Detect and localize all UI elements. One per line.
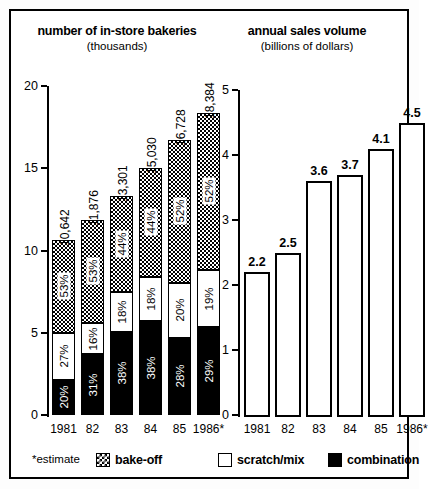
bar-segment-bake-off: 53% (52, 240, 75, 333)
bar-value-label: 3.7 (331, 159, 369, 172)
bar-segment-percent-label: 44% (115, 231, 128, 258)
bar-value-label: 4.5 (393, 107, 431, 120)
bar-segment-combination: 38% (139, 321, 162, 415)
bar-segment-bake-off: 53% (81, 220, 104, 324)
left-chart-title-block: number of in-store bakeries (thousands) (22, 24, 212, 54)
bar-total-label: 11,876 (88, 190, 100, 226)
left-chart-subtitle: (thousands) (22, 39, 212, 54)
legend-label-combination: combination (347, 453, 419, 467)
left-chart-y-tick (41, 414, 47, 416)
right-chart-y-tick (232, 219, 238, 221)
left-chart-y-tick (41, 250, 47, 252)
legend-estimate-note: *estimate (32, 453, 80, 465)
left-chart-y-tick (41, 167, 47, 169)
bar-segment-label-wrap: 16% (82, 324, 103, 353)
stacked-bar: 38%18%44% (139, 168, 162, 415)
bar-segment-percent-label: 52% (173, 198, 186, 225)
legend-swatch-bake-off (96, 453, 110, 467)
bar-total-label: 15,030 (146, 137, 158, 174)
bar-segment-label-wrap: 20% (169, 284, 190, 337)
right-chart-y-tick (232, 349, 238, 351)
legend-item-combination: combination (328, 450, 419, 468)
chart-legend: *estimate bake-offscratch/mixcombination (18, 450, 402, 472)
right-chart-y-tick (232, 284, 238, 286)
bar-segment-scratch-mix: 27% (52, 333, 75, 380)
bar-segment-label-wrap: 18% (140, 278, 161, 321)
legend-swatch-combination (328, 453, 342, 467)
right-chart-y-axis-line (238, 90, 240, 417)
bar-value-label: 4.1 (362, 133, 400, 146)
bar-total-label: 13,301 (117, 165, 129, 202)
left-chart-panel: 05101520 20%27%53%10,64231%16%53%11,8763… (18, 78, 210, 438)
legend-label-scratch-mix: scratch/mix (237, 453, 304, 467)
bar-segment-bake-off: 52% (168, 140, 191, 283)
left-chart-y-tick-label: 20 (7, 80, 38, 92)
category-label: 1986* (390, 423, 432, 436)
right-chart-y-tick-label: 3 (208, 214, 229, 226)
bar-segment-bake-off: 44% (110, 196, 133, 292)
bar-total-label: 16,728 (175, 109, 187, 146)
bar-segment-label-wrap: 44% (111, 197, 132, 291)
bar-segment-percent-label: 53% (57, 273, 70, 300)
open-bar (275, 253, 301, 418)
bar-segment-percent-label: 52% (202, 178, 215, 205)
open-bar (368, 149, 394, 418)
right-chart-y-tick-label: 1 (208, 344, 229, 356)
legend-item-scratch-mix: scratch/mix (218, 450, 304, 468)
bar-value-label: 2.5 (269, 237, 307, 250)
left-chart-y-tick (41, 332, 47, 334)
left-chart-y-tick (41, 85, 47, 87)
bar-segment-combination: 38% (110, 332, 133, 415)
right-chart-y-tick-label: 5 (208, 84, 229, 96)
bar-segment-label-wrap: 44% (140, 169, 161, 276)
bar-segment-percent-label: 20% (58, 386, 69, 409)
bar-value-label: 2.2 (238, 256, 276, 269)
bar-segment-percent-label: 44% (144, 209, 157, 236)
open-bar (306, 181, 332, 417)
left-chart-y-tick-label: 0 (7, 409, 38, 421)
bar-segment-label-wrap: 53% (53, 241, 74, 332)
bar-segment-percent-label: 53% (86, 258, 99, 285)
bar-segment-label-wrap: 53% (82, 221, 103, 323)
right-chart-y-tick-label: 4 (208, 149, 229, 161)
open-bar (337, 175, 363, 418)
right-chart-y-tick-label: 2 (208, 279, 229, 291)
stacked-bar: 20%27%53% (52, 240, 75, 415)
bar-segment-label-wrap: 27% (53, 334, 74, 379)
bar-segment-label-wrap: 18% (111, 293, 132, 330)
stacked-bar: 28%20%52% (168, 140, 191, 415)
left-chart-y-tick-label: 10 (7, 245, 38, 257)
stacked-bar: 38%18%44% (110, 196, 133, 415)
bar-segment-percent-label: 31% (87, 373, 98, 396)
bar-segment-percent-label: 29% (203, 360, 214, 383)
bar-segment-combination: 20% (52, 380, 75, 415)
bar-segment-bake-off: 44% (139, 168, 162, 277)
bar-segment-percent-label: 20% (173, 297, 186, 324)
bar-segment-scratch-mix: 18% (139, 277, 162, 322)
bar-segment-percent-label: 16% (86, 325, 99, 352)
bar-segment-combination: 31% (81, 354, 104, 415)
bar-segment-label-wrap: 28% (169, 339, 190, 414)
bar-segment-percent-label: 38% (145, 356, 156, 379)
left-chart-title: number of in-store bakeries (22, 24, 212, 39)
legend-label-bake-off: bake-off (115, 453, 162, 467)
open-bar (399, 123, 425, 418)
bar-segment-label-wrap: 20% (53, 381, 74, 414)
stacked-bar: 31%16%53% (81, 220, 104, 415)
bar-total-label: 10,642 (59, 209, 71, 246)
bar-segment-percent-label: 28% (174, 365, 185, 388)
bar-segment-scratch-mix: 18% (110, 292, 133, 331)
bar-segment-scratch-mix: 16% (81, 323, 104, 354)
bar-segment-percent-label: 18% (144, 285, 157, 312)
right-chart-title: annual sales volume (212, 24, 402, 39)
left-chart-y-tick-label: 5 (7, 327, 38, 339)
bar-segment-label-wrap: 31% (82, 355, 103, 414)
left-chart-y-tick-label: 15 (7, 162, 38, 174)
bar-segment-label-wrap: 52% (169, 141, 190, 282)
left-chart-y-axis-line (47, 86, 49, 417)
bar-segment-combination: 28% (168, 338, 191, 415)
right-chart-panel: 012345 2.22.53.63.74.14.5 19818283848519… (216, 78, 406, 438)
right-chart-y-tick (232, 89, 238, 91)
right-chart-y-tick (232, 154, 238, 156)
